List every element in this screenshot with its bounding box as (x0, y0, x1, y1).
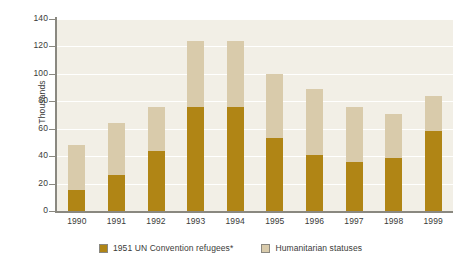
bar-segment-convention[interactable] (108, 175, 125, 211)
bar-segment-humanitarian[interactable] (227, 41, 244, 107)
bar-group[interactable] (68, 19, 85, 211)
x-tick-label: 1993 (174, 216, 218, 226)
legend-label-humanitarian: Humanitarian statuses (275, 243, 362, 253)
legend-swatch-convention (99, 244, 108, 253)
y-tick-label: 80 (4, 95, 48, 105)
y-tick-mark (49, 46, 55, 47)
bar-group[interactable] (266, 19, 283, 211)
bar-segment-humanitarian[interactable] (187, 41, 204, 107)
y-tick-label: 20 (4, 178, 48, 188)
bar-segment-convention[interactable] (385, 158, 402, 211)
bar-segment-convention[interactable] (266, 138, 283, 211)
y-axis-line (55, 17, 57, 213)
y-tick-label: 60 (4, 123, 48, 133)
bar-segment-convention[interactable] (148, 151, 165, 211)
bar-segment-humanitarian[interactable] (306, 89, 323, 155)
bar-segment-humanitarian[interactable] (266, 74, 283, 138)
x-tick-label: 1995 (253, 216, 297, 226)
y-tick-mark (49, 101, 55, 102)
y-tick-label: 0 (4, 205, 48, 215)
bar-group[interactable] (385, 19, 402, 211)
bar-segment-humanitarian[interactable] (346, 107, 363, 162)
bar-group[interactable] (148, 19, 165, 211)
x-axis-labels: 1990199119921993199419951996199719981999 (57, 216, 453, 232)
bar-group[interactable] (227, 19, 244, 211)
x-tick-label: 1991 (94, 216, 138, 226)
y-tick-label: 140 (4, 13, 48, 23)
y-tick-mark (49, 211, 55, 212)
x-tick-label: 1997 (332, 216, 376, 226)
bar-group[interactable] (425, 19, 442, 211)
bar-segment-humanitarian[interactable] (68, 145, 85, 190)
x-tick-label: 1994 (213, 216, 257, 226)
bar-group[interactable] (306, 19, 323, 211)
x-tick-label: 1990 (55, 216, 99, 226)
y-tick-mark (49, 129, 55, 130)
bar-segment-humanitarian[interactable] (385, 114, 402, 158)
bar-group[interactable] (108, 19, 125, 211)
bar-segment-convention[interactable] (306, 155, 323, 211)
x-tick-label: 1998 (372, 216, 416, 226)
plot-area (57, 19, 453, 211)
legend-item-convention[interactable]: 1951 UN Convention refugees* (99, 243, 233, 253)
bar-segment-convention[interactable] (68, 190, 85, 211)
y-tick-label: 40 (4, 150, 48, 160)
y-tick-mark (49, 19, 55, 20)
legend-swatch-humanitarian (261, 244, 270, 253)
legend: 1951 UN Convention refugees* Humanitaria… (0, 243, 461, 253)
stacked-bar-chart: Thousands 020406080100120140 19901991199… (0, 0, 461, 269)
x-axis-line (55, 211, 453, 213)
bar-segment-convention[interactable] (346, 162, 363, 211)
bar-group[interactable] (187, 19, 204, 211)
legend-label-convention: 1951 UN Convention refugees* (113, 243, 233, 253)
bar-segment-humanitarian[interactable] (425, 96, 442, 132)
x-tick-label: 1992 (134, 216, 178, 226)
bar-segment-convention[interactable] (425, 131, 442, 211)
legend-item-humanitarian[interactable]: Humanitarian statuses (261, 243, 362, 253)
x-tick-label: 1999 (411, 216, 455, 226)
y-tick-mark (49, 156, 55, 157)
y-axis-ticks: 020406080100120140 (0, 0, 48, 269)
bar-group[interactable] (346, 19, 363, 211)
y-tick-label: 100 (4, 68, 48, 78)
bar-segment-humanitarian[interactable] (108, 123, 125, 175)
y-tick-mark (49, 184, 55, 185)
x-tick-label: 1996 (292, 216, 336, 226)
y-tick-mark (49, 74, 55, 75)
y-tick-label: 120 (4, 40, 48, 50)
bar-segment-convention[interactable] (227, 107, 244, 211)
bar-segment-humanitarian[interactable] (148, 107, 165, 151)
bar-segment-convention[interactable] (187, 107, 204, 211)
